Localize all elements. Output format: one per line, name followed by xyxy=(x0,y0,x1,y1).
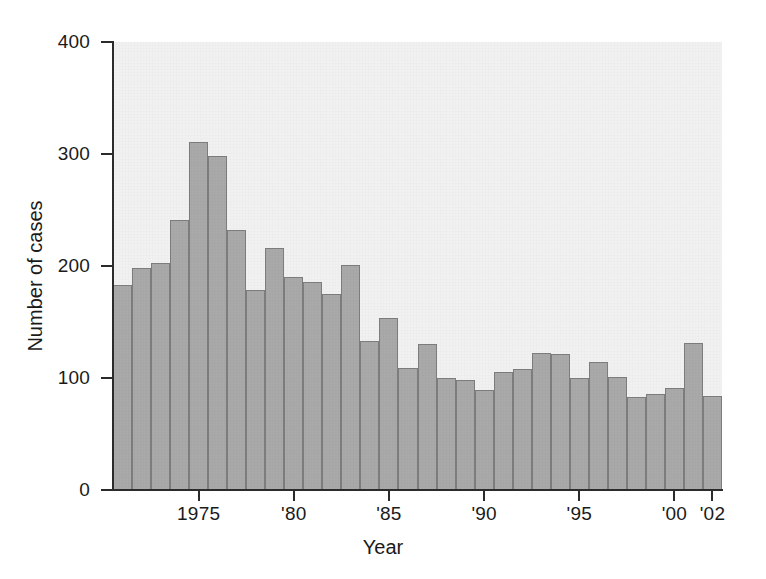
plot-area xyxy=(113,42,722,490)
x-axis-tick xyxy=(673,491,675,501)
x-axis-title: Year xyxy=(0,536,766,558)
x-axis-tick xyxy=(711,491,713,501)
bar xyxy=(456,380,475,490)
bar-chart-figure: 0100200300400 1975'80'85'90'95'00'02 Yea… xyxy=(0,0,766,579)
bar xyxy=(170,220,189,490)
bar xyxy=(513,369,532,490)
bar xyxy=(360,341,379,490)
y-axis-tick xyxy=(101,41,113,43)
x-axis-tick-label: '02 xyxy=(700,503,725,525)
bar xyxy=(151,263,170,490)
bar xyxy=(208,156,227,490)
y-axis-tick xyxy=(101,265,113,267)
bar xyxy=(570,378,589,490)
x-axis-tick xyxy=(293,491,295,501)
y-axis-tick-label: 400 xyxy=(28,32,90,51)
x-axis-tick-label: '00 xyxy=(662,503,687,525)
y-axis-tick xyxy=(101,153,113,155)
bar xyxy=(227,230,246,490)
bar xyxy=(475,390,494,490)
bar xyxy=(646,394,665,490)
bar xyxy=(589,362,608,490)
x-axis-line xyxy=(112,489,723,491)
x-axis-tick-label: '80 xyxy=(281,503,306,525)
bar xyxy=(341,265,360,490)
x-axis-tick-label: '95 xyxy=(567,503,592,525)
y-axis-tick xyxy=(101,489,113,491)
x-axis-tick xyxy=(483,491,485,501)
x-axis-tick xyxy=(388,491,390,501)
y-axis-ticks: 0100200300400 xyxy=(0,0,113,579)
x-axis-tick-label: 1975 xyxy=(177,503,220,525)
x-axis-tick xyxy=(578,491,580,501)
bar xyxy=(246,290,265,490)
bar xyxy=(437,378,456,490)
bar xyxy=(303,282,322,490)
x-axis-tick xyxy=(198,491,200,501)
bar xyxy=(113,285,132,490)
bar xyxy=(608,377,627,490)
bar xyxy=(418,344,437,490)
x-axis-tick-label: '90 xyxy=(471,503,496,525)
y-axis-tick-label: 0 xyxy=(28,480,90,499)
bar xyxy=(703,396,722,490)
y-axis-tick xyxy=(101,377,113,379)
bar xyxy=(379,318,398,490)
bar xyxy=(284,277,303,490)
bar xyxy=(665,388,684,490)
bar xyxy=(494,372,513,490)
y-axis-title: Number of cases xyxy=(24,146,46,406)
bar xyxy=(551,354,570,490)
bar xyxy=(398,368,417,490)
bar xyxy=(132,268,151,490)
bar xyxy=(532,353,551,490)
bar xyxy=(322,294,341,490)
bar xyxy=(265,248,284,490)
bar xyxy=(684,343,703,490)
x-axis-tick-label: '85 xyxy=(376,503,401,525)
bar xyxy=(189,142,208,490)
bar xyxy=(627,397,646,490)
